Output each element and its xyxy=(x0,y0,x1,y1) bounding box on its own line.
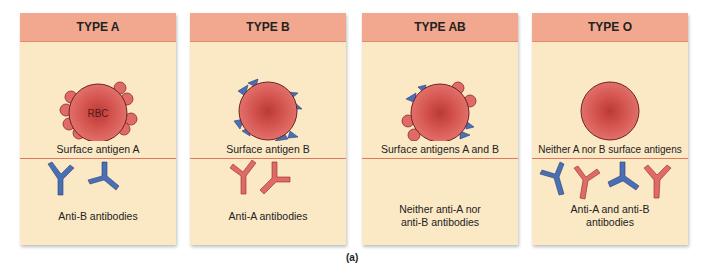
panel-type-a: TYPE A RBC Surface antigen A Anti-B anti… xyxy=(20,13,176,245)
antigen-caption: Surface antigen A xyxy=(20,143,176,156)
panel-title: TYPE A xyxy=(20,13,176,42)
antibody-caption: Anti-B antibodies xyxy=(20,210,176,223)
divider xyxy=(20,158,176,159)
panel-type-o: TYPE O Neither A nor B surface antigens … xyxy=(532,13,688,245)
rbc-with-antigen-a-icon: RBC xyxy=(20,41,176,141)
panel-type-ab: TYPE AB Surface antigens A and B Neither… xyxy=(362,13,518,245)
antigen-caption: Surface antigens A and B xyxy=(362,143,518,156)
divider xyxy=(190,158,346,159)
panel-title: TYPE B xyxy=(190,13,346,42)
antibody-caption: Anti-A antibodies xyxy=(190,210,346,223)
antibody-caption-line2: antibodies xyxy=(532,216,688,229)
rbc-no-antigens-icon xyxy=(532,41,688,141)
antigen-caption: Neither A nor B surface antigens xyxy=(532,143,688,156)
antibody-caption-line2: anti-B antibodies xyxy=(362,216,518,229)
anti-b-antibodies-icon xyxy=(20,160,176,200)
panel-title: TYPE AB xyxy=(362,13,518,42)
antigen-caption: Surface antigen B xyxy=(190,143,346,156)
rbc-with-antigens-a-and-b-icon xyxy=(362,41,518,141)
antibody-caption-line1: Neither anti-A nor xyxy=(362,203,518,216)
divider xyxy=(362,158,518,159)
rbc-label: RBC xyxy=(87,108,108,119)
figure-label: (a) xyxy=(346,252,358,263)
antibody-caption-line1: Anti-A and anti-B xyxy=(532,203,688,216)
divider xyxy=(532,158,688,159)
rbc-with-antigen-b-icon xyxy=(190,41,346,141)
anti-a-antibodies-icon xyxy=(190,160,346,200)
panel-title: TYPE O xyxy=(532,13,688,42)
panel-type-b: TYPE B Surface antigen B Anti-A antibodi… xyxy=(190,13,346,245)
anti-a-and-anti-b-antibodies-icon xyxy=(532,160,688,200)
